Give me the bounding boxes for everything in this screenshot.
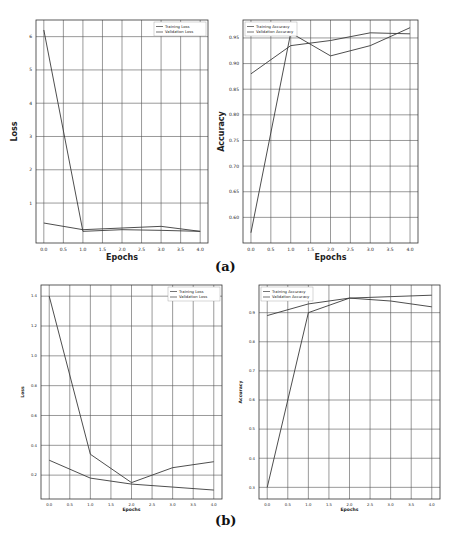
x-tick-label: 2.0 xyxy=(128,502,135,507)
legend-label: Training Accuracy xyxy=(271,289,306,294)
x-tick-label: 2.5 xyxy=(347,247,354,252)
x-tick-label: 1.0 xyxy=(305,502,312,507)
x-tick-label: 2.5 xyxy=(138,247,145,252)
y-axis-label: Accuracy xyxy=(217,110,226,151)
y-tick-label: 1.4 xyxy=(31,293,38,298)
x-tick-label: 0.5 xyxy=(60,247,67,252)
y-tick-label: 1.0 xyxy=(31,353,38,358)
x-tick-label: 1.0 xyxy=(79,247,86,252)
x-tick-label: 1.5 xyxy=(108,502,115,507)
x-tick-label: 3.0 xyxy=(158,247,165,252)
y-tick-label: 0.4 xyxy=(31,443,38,448)
y-tick-label: 0.7 xyxy=(249,368,256,373)
x-tick-label: 0.0 xyxy=(247,247,254,252)
y-tick-label: 1 xyxy=(29,201,32,206)
y-tick-label: 3 xyxy=(29,134,32,139)
y-tick-label: 2 xyxy=(29,167,32,172)
legend: Training LossValidation Loss xyxy=(168,287,220,301)
x-tick-label: 0.0 xyxy=(264,502,271,507)
y-tick-label: 0.6 xyxy=(31,413,38,418)
y-tick-label: 0.8 xyxy=(31,383,38,388)
y-tick-label: 0.2 xyxy=(31,472,38,477)
legend: Training AccuracyValidation Accuracy xyxy=(261,287,313,301)
x-tick-label: 0.0 xyxy=(46,502,53,507)
y-axis-label: Accuracy xyxy=(238,381,243,404)
x-tick-label: 4.0 xyxy=(406,247,413,252)
x-axis-label: Epochs xyxy=(123,507,141,512)
y-axis-label: Loss xyxy=(10,121,19,141)
y-tick-label: 5 xyxy=(29,67,32,72)
x-tick-label: 4.0 xyxy=(429,502,436,507)
y-tick-label: 0.60 xyxy=(229,215,239,220)
y-tick-label: 0.70 xyxy=(229,164,239,169)
x-tick-label: 2.5 xyxy=(367,502,374,507)
legend-label: Training Loss xyxy=(164,24,190,29)
y-tick-label: 0.5 xyxy=(249,426,256,431)
legend-label: Validation Accuracy xyxy=(272,294,310,299)
x-axis-label: Epochs xyxy=(106,253,138,262)
y-tick-label: 0.8 xyxy=(249,339,256,344)
x-tick-label: 3.0 xyxy=(170,502,177,507)
x-tick-label: 1.0 xyxy=(287,247,294,252)
x-tick-label: 3.5 xyxy=(177,247,184,252)
legend-label: Training Loss xyxy=(178,289,204,294)
x-axis-label: Epochs xyxy=(341,507,359,512)
x-tick-label: 1.5 xyxy=(326,502,333,507)
y-tick-label: 0.75 xyxy=(229,138,239,143)
x-tick-label: 0.0 xyxy=(40,247,47,252)
x-tick-label: 3.5 xyxy=(190,502,197,507)
y-tick-label: 0.95 xyxy=(229,35,239,40)
figure-canvas: 0.00.51.01.52.02.53.03.54.0123456Trainin… xyxy=(0,0,457,548)
legend-label: Training Accuracy xyxy=(255,24,290,29)
x-tick-label: 0.5 xyxy=(285,502,292,507)
x-tick-label: 4.0 xyxy=(211,502,218,507)
x-tick-label: 0.5 xyxy=(67,502,74,507)
legend-label: Validation Accuracy xyxy=(256,29,294,34)
x-tick-label: 3.5 xyxy=(408,502,415,507)
legend: Training AccuracyValidation Accuracy xyxy=(245,22,297,36)
chart-b-loss: 0.00.51.01.52.02.53.03.54.00.20.40.60.81… xyxy=(20,285,222,512)
y-axis-label: Loss xyxy=(20,386,25,398)
subfigure-label-b: (b) xyxy=(215,513,236,528)
x-axis-label: Epochs xyxy=(315,253,347,262)
y-tick-label: 0.65 xyxy=(229,189,239,194)
y-tick-label: 0.90 xyxy=(229,61,239,66)
x-tick-label: 4.0 xyxy=(197,247,204,252)
legend-label: Validation Loss xyxy=(165,29,193,34)
subfigure-label-a: (a) xyxy=(215,259,236,274)
x-tick-label: 2.0 xyxy=(346,502,353,507)
x-tick-label: 3.5 xyxy=(387,247,394,252)
x-tick-label: 2.0 xyxy=(118,247,125,252)
y-tick-label: 0.85 xyxy=(229,87,239,92)
y-tick-label: 0.80 xyxy=(229,112,239,117)
x-tick-label: 2.0 xyxy=(327,247,334,252)
chart-a-acc: 0.00.51.01.52.02.53.03.54.00.600.650.700… xyxy=(217,20,419,262)
y-tick-label: 4 xyxy=(29,101,32,106)
legend-label: Validation Loss xyxy=(179,294,207,299)
x-tick-label: 0.5 xyxy=(267,247,274,252)
chart-b-acc: 0.00.51.01.52.02.53.03.54.00.30.40.50.60… xyxy=(238,285,440,512)
x-tick-label: 1.5 xyxy=(99,247,106,252)
x-tick-label: 1.0 xyxy=(87,502,94,507)
legend: Training LossValidation Loss xyxy=(154,22,206,36)
x-tick-label: 2.5 xyxy=(149,502,156,507)
y-tick-label: 1.2 xyxy=(31,323,38,328)
y-tick-label: 0.6 xyxy=(249,397,256,402)
chart-a-loss: 0.00.51.01.52.02.53.03.54.0123456Trainin… xyxy=(10,20,209,262)
y-tick-label: 0.3 xyxy=(249,485,256,490)
x-tick-label: 3.0 xyxy=(388,502,395,507)
y-tick-label: 0.9 xyxy=(249,310,256,315)
y-tick-label: 6 xyxy=(29,34,32,39)
x-tick-label: 1.5 xyxy=(307,247,314,252)
x-tick-label: 3.0 xyxy=(367,247,374,252)
y-tick-label: 0.4 xyxy=(249,456,256,461)
